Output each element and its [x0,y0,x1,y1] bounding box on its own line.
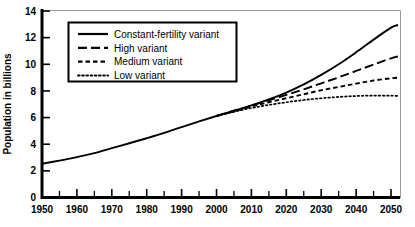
x-tick-label: 1970 [101,204,124,215]
x-tick-label: 2040 [345,204,368,215]
y-tick-label: 4 [30,139,36,150]
x-tick-label: 1990 [170,204,193,215]
y-tick-label: 12 [25,32,37,43]
x-tick-label: 1980 [136,204,159,215]
x-tick-label: 2000 [205,204,228,215]
y-tick-label: 6 [30,112,36,123]
y-tick-label: 0 [30,192,36,203]
population-projection-line-chart: 02468101214 1950196019701980199020002010… [0,0,415,227]
legend-label: Medium variant [114,56,183,67]
x-axis-tick-labels: 1950196019701980199020002010202020302040… [31,204,403,215]
x-tick-label: 2050 [380,204,403,215]
y-tick-label: 8 [30,86,36,97]
y-tick-label: 2 [30,165,36,176]
legend-label: Constant-fertility variant [114,29,219,40]
x-tick-label: 2010 [240,204,263,215]
y-axis-title: Population in billions [2,53,13,155]
series-line-low-variant [217,96,398,116]
x-tick-label: 1960 [66,204,89,215]
y-tick-label: 14 [25,6,37,17]
chart-figure: 02468101214 1950196019701980199020002010… [0,0,415,227]
x-tick-label: 2020 [275,204,298,215]
chart-legend: Constant-fertility variantHigh variantMe… [69,23,237,82]
y-tick-label: 10 [25,59,37,70]
legend-label: High variant [114,43,168,54]
x-tick-label: 2030 [310,204,333,215]
y-axis-tick-labels: 02468101214 [25,6,37,204]
y-axis-ticks [43,11,50,198]
legend-label: Low variant [114,70,165,81]
x-tick-label: 1950 [31,204,54,215]
